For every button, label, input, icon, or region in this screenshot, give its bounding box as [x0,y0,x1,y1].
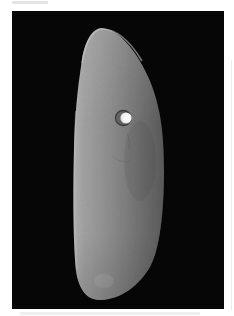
stone-pendant-illustration [12,11,224,309]
drilled-hole [116,110,133,126]
stone-pendant-photo [12,11,224,309]
page-edge-line [231,60,232,310]
faint-header-text [12,1,48,4]
faint-caption-text [20,312,200,315]
